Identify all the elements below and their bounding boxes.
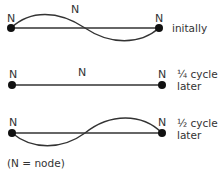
node-label: N [71, 4, 79, 15]
caption-quarter-line2: later [177, 80, 201, 92]
caption-initially: initally [172, 22, 207, 34]
caption-half-line1: ½ cycle [177, 117, 218, 129]
node-label: N [158, 69, 166, 80]
node-label: N [9, 117, 17, 128]
row-half-cycle [8, 118, 166, 146]
node-dot [158, 129, 166, 137]
wave-curve [12, 118, 162, 146]
node-label: N [78, 67, 86, 78]
node-dot [155, 24, 163, 32]
node-label: N [155, 13, 163, 24]
node-label: N [7, 13, 15, 24]
node-dot [8, 81, 16, 89]
node-dot [158, 81, 166, 89]
row-initially [7, 15, 163, 41]
row-quarter-cycle [8, 81, 166, 89]
node-dot [7, 24, 15, 32]
legend-note: (N = node) [7, 157, 65, 169]
caption-half-line2: later [177, 129, 201, 141]
node-label: N [158, 117, 166, 128]
caption-quarter-line1: ¼ cycle [177, 68, 218, 80]
node-dot [8, 129, 16, 137]
node-label: N [9, 69, 17, 80]
